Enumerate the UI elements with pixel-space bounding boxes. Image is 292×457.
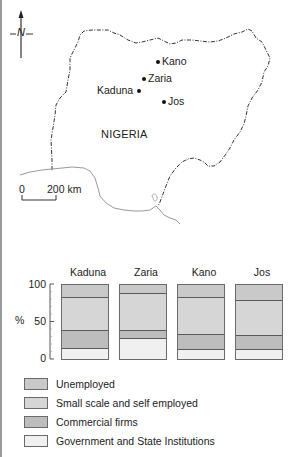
seg-commercial xyxy=(62,330,108,348)
seg-commercial xyxy=(120,330,166,337)
bar-kaduna xyxy=(61,284,109,360)
legend-item-unemployed: Unemployed xyxy=(24,378,284,392)
seg-unemployed xyxy=(236,285,282,300)
scale-bar xyxy=(22,195,56,200)
stacked-bar-chart: Kaduna Zaria Kano Jos % 100 50 0 xyxy=(0,262,292,372)
seg-commercial xyxy=(236,335,282,349)
seg-unemployed xyxy=(62,285,108,297)
seg-government xyxy=(120,338,166,359)
seg-small-scale xyxy=(178,297,224,334)
seg-government xyxy=(62,348,108,359)
seg-small-scale xyxy=(62,297,108,330)
city-dot-jos xyxy=(162,100,166,104)
bar-kano xyxy=(177,284,225,360)
city-dot-kaduna xyxy=(137,89,141,93)
legend-swatch-small-scale xyxy=(24,397,48,409)
nigeria-map: N Kano Zaria Kaduna Jos NIGERIA 0 200 km xyxy=(0,0,292,235)
bar-zaria xyxy=(119,284,167,360)
legend-label: Commercial firms xyxy=(56,416,138,428)
legend-label: Government and State Institutions xyxy=(56,435,215,447)
seg-small-scale xyxy=(236,300,282,335)
legend-swatch-government xyxy=(24,435,48,447)
legend-item-government: Government and State Institutions xyxy=(24,435,284,449)
city-dot-zaria xyxy=(142,77,146,81)
seg-commercial xyxy=(178,334,224,349)
seg-unemployed xyxy=(178,285,224,297)
city-dot-kano xyxy=(156,60,160,64)
seg-government xyxy=(236,349,282,359)
legend-label: Small scale and self employed xyxy=(56,397,198,409)
national-border xyxy=(51,29,270,206)
legend-item-commercial: Commercial firms xyxy=(24,416,284,430)
legend-item-small-scale: Small scale and self employed xyxy=(24,397,284,411)
city-label-jos: Jos xyxy=(168,95,184,107)
north-label: N xyxy=(17,26,25,38)
city-label-kaduna: Kaduna xyxy=(97,84,133,96)
bar-jos xyxy=(235,284,283,360)
seg-unemployed xyxy=(120,285,166,293)
seg-small-scale xyxy=(120,293,166,330)
legend-label: Unemployed xyxy=(56,378,115,390)
scale-start-label: 0 xyxy=(19,183,25,195)
seg-government xyxy=(178,349,224,359)
city-label-zaria: Zaria xyxy=(148,72,172,84)
country-label: NIGERIA xyxy=(101,128,148,140)
map-outline-svg xyxy=(0,0,292,235)
city-label-kano: Kano xyxy=(162,55,187,67)
scale-end-label: 200 km xyxy=(47,183,81,195)
legend-swatch-commercial xyxy=(24,416,48,428)
legend-swatch-unemployed xyxy=(24,378,48,390)
